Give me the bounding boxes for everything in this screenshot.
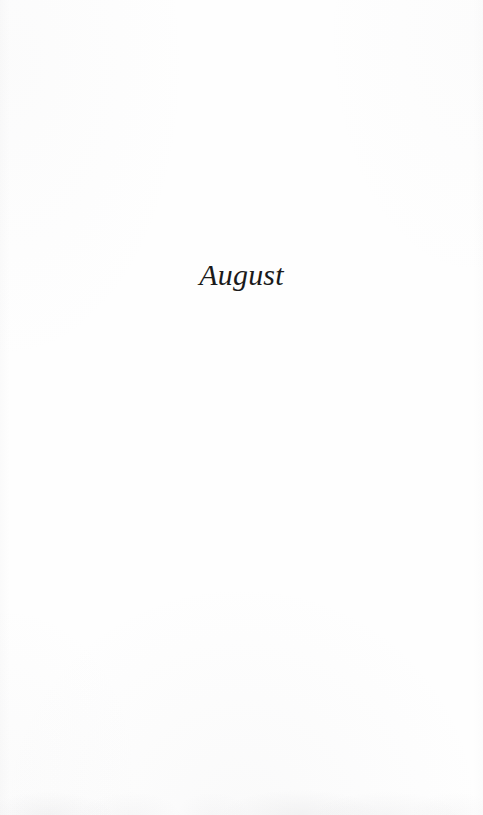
scan-artifact-left-edge [0,0,10,815]
page-title: August [199,258,284,292]
scan-artifact-bottom-edge [0,789,483,815]
section-title-block: August [0,258,483,292]
scanned-book-page: August [0,0,483,815]
scan-artifact-right-edge [473,0,483,815]
